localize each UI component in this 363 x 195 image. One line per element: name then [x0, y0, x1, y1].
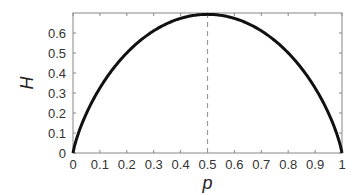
y-tick-label: 0.6 [48, 26, 66, 41]
x-tick-label: 0.7 [252, 157, 270, 172]
x-axis-label: p [201, 173, 212, 193]
x-tick-label: 0.5 [198, 157, 216, 172]
y-tick-label: 0.4 [48, 66, 66, 81]
y-axis-label: H [17, 76, 37, 90]
y-tick-label: 0.3 [48, 86, 66, 101]
x-tick-label: 1 [338, 157, 345, 172]
x-tick-label: 0.2 [118, 157, 136, 172]
x-tick-label: 0.3 [145, 157, 163, 172]
y-tick-label: 0.2 [48, 106, 66, 121]
x-tick-label: 0 [69, 157, 76, 172]
entropy-chart: 00.10.20.30.40.50.60.70.80.9100.10.20.30… [0, 0, 363, 195]
x-tick-label: 0.8 [279, 157, 297, 172]
y-tick-label: 0.1 [48, 126, 66, 141]
plot-area: 00.10.20.30.40.50.60.70.80.9100.10.20.30… [17, 13, 346, 193]
x-tick-label: 0.1 [91, 157, 109, 172]
x-tick-label: 0.9 [306, 157, 324, 172]
x-tick-label: 0.6 [225, 157, 243, 172]
y-tick-label: 0.5 [48, 46, 66, 61]
x-tick-label: 0.4 [172, 157, 190, 172]
y-tick-label: 0 [59, 146, 66, 161]
